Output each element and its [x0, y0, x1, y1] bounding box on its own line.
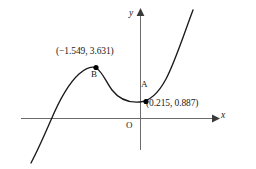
- x-axis-arrowhead: [212, 115, 220, 123]
- origin-label: O: [126, 121, 133, 130]
- y-axis-arrowhead: [137, 8, 145, 16]
- x-axis-label: x: [221, 111, 225, 121]
- local-minimum-coordinate-label: (0.215, 0.887): [146, 99, 198, 109]
- local-minimum-point-label: A: [141, 80, 148, 89]
- cubic-graph-figure: (−1.549, 3.631) B A (0.215, 0.887) y x O: [0, 0, 256, 169]
- plot-canvas: [0, 0, 256, 169]
- y-axis-label: y: [129, 9, 133, 19]
- cubic-curve: [31, 10, 193, 163]
- local-maximum-coordinate-label: (−1.549, 3.631): [56, 47, 114, 57]
- local-maximum-point-label: B: [91, 70, 97, 79]
